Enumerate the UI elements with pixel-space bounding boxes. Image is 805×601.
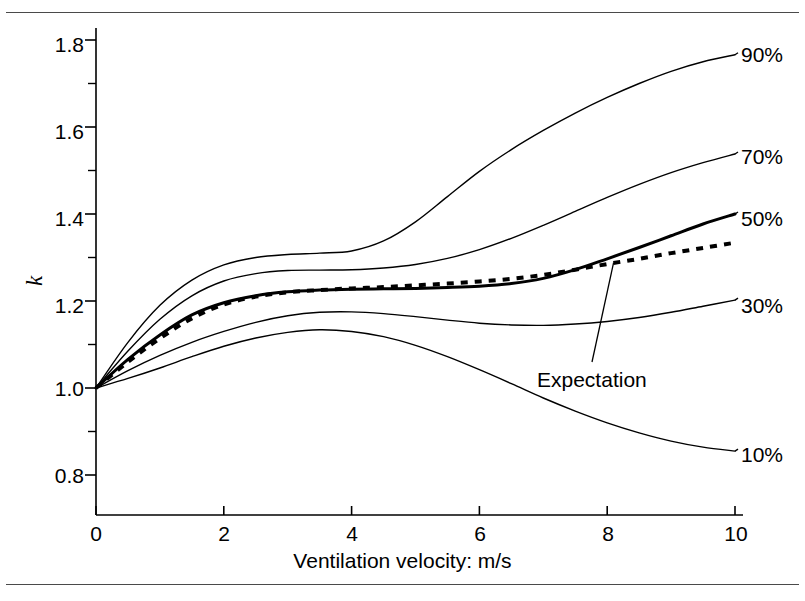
y-tick-label-1.4: 1.4 xyxy=(22,207,84,231)
series-leader-90 xyxy=(735,53,738,55)
curve-50- xyxy=(96,214,735,388)
curve-70- xyxy=(96,154,735,388)
series-label-30: 30% xyxy=(741,294,783,318)
x-tick-label-2: 2 xyxy=(199,522,249,546)
y-tick-label-1.2: 1.2 xyxy=(22,294,84,318)
x-tick-label-6: 6 xyxy=(455,522,505,546)
annotation-leader-line xyxy=(592,263,614,362)
x-tick-label-0: 0 xyxy=(71,522,121,546)
figure-container: 1.8 1.6 1.4 1.2 1.0 0.8 0 2 4 6 8 10 k V… xyxy=(0,0,805,601)
series-leader-70 xyxy=(735,152,738,154)
series-label-90: 90% xyxy=(741,43,783,67)
axes-group xyxy=(85,28,743,515)
expectation-leader-line xyxy=(592,263,614,362)
x-tick-label-8: 8 xyxy=(583,522,633,546)
y-axis-title: k xyxy=(22,276,48,286)
series-leader-50 xyxy=(735,212,738,214)
series-leader-30 xyxy=(735,298,738,300)
series-label-10: 10% xyxy=(741,443,783,467)
curve-90- xyxy=(96,55,735,388)
series-label-50: 50% xyxy=(741,207,783,231)
y-tick-label-0.8: 0.8 xyxy=(22,464,84,488)
x-axis-title: Ventilation velocity: m/s xyxy=(0,549,805,573)
y-tick-label-1.8: 1.8 xyxy=(22,33,84,57)
series-label-70: 70% xyxy=(741,145,783,169)
x-tick-label-10: 10 xyxy=(711,522,761,546)
y-tick-label-1.0: 1.0 xyxy=(22,377,84,401)
expectation-annotation-label: Expectation xyxy=(537,368,647,392)
x-tick-label-4: 4 xyxy=(327,522,377,546)
y-tick-label-1.6: 1.6 xyxy=(22,120,84,144)
line-chart-plot xyxy=(0,0,805,601)
series-leader-10 xyxy=(735,449,738,451)
